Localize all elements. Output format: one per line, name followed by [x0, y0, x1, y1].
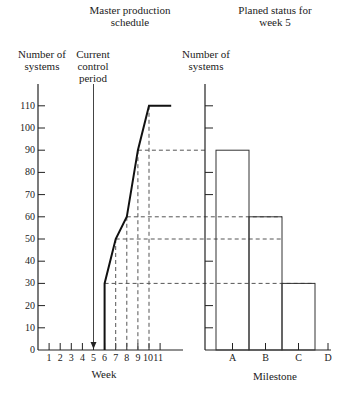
milestone-label: A [223, 353, 243, 363]
y-tick-label: 70 [5, 190, 35, 200]
milestone-bar [216, 150, 249, 350]
y-tick-label: 40 [5, 256, 35, 266]
milestone-label: C [289, 353, 309, 363]
y-tick-label: 60 [5, 212, 35, 222]
y-tick-label: 20 [5, 301, 35, 311]
y-tick-label: 80 [5, 167, 35, 177]
milestone-label: B [256, 353, 276, 363]
chart-canvas [0, 0, 348, 396]
y-tick-label: 0 [5, 345, 35, 355]
y-tick-label: 30 [5, 278, 35, 288]
y-tick-label: 110 [5, 101, 35, 111]
y-tick-label: 90 [5, 145, 35, 155]
milestone-label: D [318, 353, 338, 363]
arrow-down-icon [91, 342, 97, 349]
y-tick-label: 50 [5, 234, 35, 244]
y-tick-label: 100 [5, 123, 35, 133]
milestone-bar [282, 283, 315, 350]
x-tick-label: 11 [148, 353, 168, 363]
y-tick-label: 10 [5, 323, 35, 333]
